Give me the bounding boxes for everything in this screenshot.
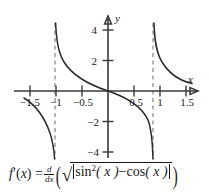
x-tick-label--0.5: −0.5: [73, 96, 93, 108]
y-axis: [103, 16, 114, 158]
abs-bar-right: [169, 164, 170, 179]
y-tick-label--4: −4: [87, 146, 99, 158]
y-tick-label--2: −2: [87, 116, 99, 128]
y-tick-label-2: 2: [92, 55, 98, 67]
x-tick-label-1: 1: [157, 96, 163, 108]
formula-caption: f′(x) =ddx(√sin2( x )−cos( x )): [0, 160, 209, 193]
formula-equals: =: [35, 166, 43, 181]
plot-canvas: −1.5 −1 −0.5 0.5 1 1.5 4 2 −2 −4 y x: [0, 0, 209, 162]
y-tick-label-4: 4: [92, 24, 98, 36]
x-tick-label--1.5: −1.5: [20, 96, 40, 108]
curve-branch-right-upper: [154, 23, 192, 84]
figure-container: −1.5 −1 −0.5 0.5 1 1.5 4 2 −2 −4 y x f′(…: [0, 0, 209, 193]
x-tick-label-1.5: 1.5: [180, 96, 194, 108]
formula-paren-close-lhs: ): [27, 166, 32, 181]
derivative-equation: f′(x) =ddx(√sin2( x )−cos( x )): [9, 162, 178, 188]
formula-paren-close: ): [172, 163, 177, 188]
cos-argument: ( x ): [145, 164, 168, 179]
x-tick-labels: −1.5 −1 −0.5 0.5 1 1.5: [20, 96, 194, 108]
derivative-operator: ddx: [44, 165, 55, 185]
x-axis-label: x: [187, 73, 193, 85]
sin-name: sin: [75, 164, 91, 179]
derivative-denominator: dx: [44, 175, 55, 184]
cos-name: cos: [126, 164, 145, 179]
formula-paren-open: (: [56, 163, 61, 188]
function-plot: −1.5 −1 −0.5 0.5 1 1.5 4 2 −2 −4 y x: [0, 0, 209, 162]
curve-branch-middle-upper: [56, 23, 108, 91]
radicand: sin2( x )−cos( x ): [70, 162, 172, 179]
y-axis-label: y: [114, 12, 120, 24]
sin-argument: ( x ): [96, 164, 119, 179]
x-tick-label-0.5: 0.5: [129, 96, 143, 108]
x-tick-label--1: −1: [50, 96, 62, 108]
